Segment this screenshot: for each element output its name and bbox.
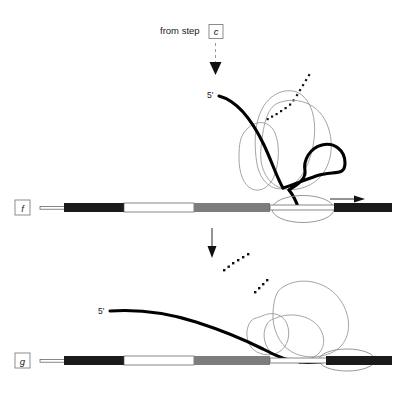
strand-to-bubble-f <box>289 190 306 207</box>
dashed-arrow-head <box>210 62 222 75</box>
panel-label-letter-g: g <box>20 356 26 367</box>
direction-arrow-head-f <box>354 195 365 202</box>
step-ref-letter: c <box>214 26 219 37</box>
five-prime-label-g: 5' <box>98 306 105 316</box>
dna-bar-f <box>40 203 392 212</box>
dna-bar-g <box>40 356 392 365</box>
entry-dashed-arrow <box>210 43 222 75</box>
bar-seg-thin-left-g <box>40 360 66 363</box>
panel-label-g: g <box>15 353 30 368</box>
bar-seg-black-right-f <box>334 203 392 212</box>
entry-label-group: from step c <box>160 25 223 39</box>
bar-seg-white-f <box>124 203 194 212</box>
bar-seg-light-g <box>270 358 332 363</box>
bar-seg-white-g <box>124 356 194 365</box>
released-strand-g <box>110 310 300 362</box>
figure-canvas: from step c 5' <box>0 0 404 398</box>
bar-seg-black-right-g <box>326 356 392 365</box>
bar-seg-gray-g <box>194 356 270 365</box>
transition-arrow-fg <box>208 228 217 258</box>
dna-loop-circle-f <box>283 144 345 190</box>
panel-label-f: f <box>15 200 30 215</box>
transition-arrow-head <box>208 246 217 258</box>
from-step-text: from step <box>160 25 200 36</box>
panel-label-letter-f: f <box>21 203 25 214</box>
direction-arrow-f <box>330 195 365 202</box>
bar-seg-black-f <box>64 203 124 212</box>
bar-seg-black-g <box>64 356 124 365</box>
bar-seg-gray-f <box>194 203 270 212</box>
diagram-svg: from step c 5' <box>0 0 404 398</box>
nascent-strand-f <box>219 96 283 188</box>
five-prime-label-f: 5' <box>207 90 214 100</box>
dotted-strand-g <box>223 253 268 293</box>
bar-seg-thin-left-f <box>40 207 66 210</box>
bar-seg-light-f <box>270 205 342 210</box>
